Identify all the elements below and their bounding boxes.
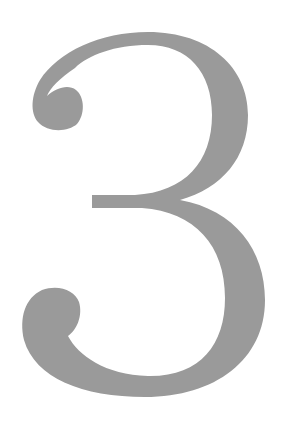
digit-three-icon	[0, 0, 283, 425]
digit-canvas: 3	[0, 0, 283, 425]
